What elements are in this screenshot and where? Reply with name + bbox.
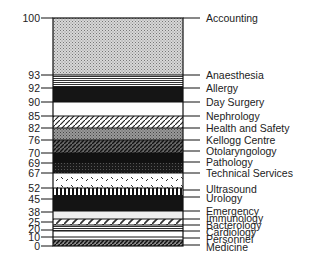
segment-immunology	[53, 219, 183, 225]
segment-health-and-safety	[53, 128, 183, 140]
tick-label: 100	[22, 12, 40, 24]
category-label: Allergy	[206, 82, 239, 94]
segment-cardiology	[53, 231, 183, 237]
segment-anaesthesia	[53, 75, 183, 87]
segment-urology	[53, 195, 183, 211]
tick-label: 93	[28, 69, 40, 81]
segment-kellogg-centre	[53, 140, 183, 153]
category-label: Accounting	[206, 12, 258, 24]
segment-pathology	[53, 163, 183, 173]
segment-technical-services	[53, 173, 183, 188]
segment-allergy	[53, 87, 183, 102]
tick-label: 0	[34, 240, 40, 252]
category-label: Medicine	[206, 241, 248, 253]
left-axis	[41, 18, 53, 246]
category-labels: Accounting Anaesthesia Allergy Day Surge…	[206, 12, 293, 253]
tick-label: 45	[28, 193, 40, 205]
tick-label: 76	[28, 134, 40, 146]
tick-label: 67	[28, 167, 40, 179]
category-label: Nephrology	[206, 110, 260, 122]
tick-label: 90	[28, 96, 40, 108]
right-leaders	[183, 18, 200, 245]
segment-medicine	[53, 240, 183, 246]
segment-ultrasound	[53, 188, 183, 195]
segment-accounting	[53, 18, 183, 75]
category-label: Urology	[206, 192, 243, 204]
stacked-bar-chart: 100 93 92 90 85 82 76 70 69 67 52 45 38 …	[0, 0, 314, 258]
tick-label: 82	[28, 122, 40, 134]
segment-day-surgery	[53, 102, 183, 116]
category-label: Technical Services	[206, 167, 293, 179]
segment-otolaryngology	[53, 153, 183, 163]
category-label: Health and Safety	[206, 122, 290, 134]
tick-label: 92	[28, 82, 40, 94]
left-tick-labels: 100 93 92 90 85 82 76 70 69 67 52 45 38 …	[22, 12, 40, 252]
segment-bacterology	[53, 225, 183, 231]
category-label: Day Surgery	[206, 96, 265, 108]
bar	[53, 18, 183, 246]
category-label: Anaesthesia	[206, 69, 264, 81]
segment-emergency	[53, 211, 183, 219]
tick-label: 85	[28, 110, 40, 122]
segment-nephrology	[53, 116, 183, 128]
